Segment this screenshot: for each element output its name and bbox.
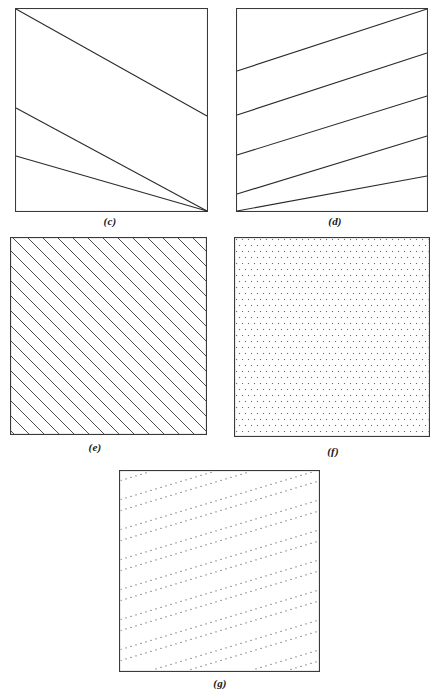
panel-f-stipple-dot (317, 377, 318, 378)
panel-f-stipple-dot (266, 335, 267, 336)
panel-f-stipple-dot (374, 359, 375, 360)
panel-f-stipple-dot (260, 275, 261, 276)
panel-g-line-dot (140, 474, 141, 475)
panel-g-line-dot (170, 495, 171, 496)
panel-f-stipple-dot (281, 425, 282, 426)
panel-f-stipple-dot (296, 287, 297, 288)
panel-f-stipple-dot (365, 257, 366, 258)
panel-g-line-dot (275, 602, 276, 603)
panel-f-stipple-dot (374, 299, 375, 300)
panel-g-line-dot (210, 472, 211, 473)
panel-f-stipple-dot (254, 275, 255, 276)
panel-f-stipple-dot (311, 281, 312, 282)
panel-f-stipple-dot (326, 419, 327, 420)
panel-f-stipple-dot (326, 371, 327, 372)
panel-g-line-dot (170, 574, 171, 575)
panel-f-stipple-dot (410, 347, 411, 348)
panel-f-stipple-dot (335, 245, 336, 246)
panel-f-stipple-dot (269, 257, 270, 258)
panel-f-stipple-dot (377, 377, 378, 378)
panel-f-stipple-dot (404, 239, 405, 240)
panel-f-stipple-dot (266, 323, 267, 324)
panel-f-stipple-dot (347, 329, 348, 330)
panel-f-stipple-dot (359, 245, 360, 246)
panel-f-stipple-dot (386, 263, 387, 264)
panel-g-line-dot (225, 628, 226, 629)
panel-g-line-dot (160, 607, 161, 608)
panel-f-stipple-dot (281, 281, 282, 282)
panel-g-line-dot (195, 626, 196, 627)
panel-f-stipple-dot (383, 305, 384, 306)
panel-g-line-dot (180, 642, 181, 643)
panel-f-stipple-dot (338, 359, 339, 360)
panel-g-line-dot (170, 555, 171, 556)
panel-f-stipple-dot (368, 311, 369, 312)
panel-g-line-dot (160, 558, 161, 559)
panel-f-stipple-dot (278, 275, 279, 276)
panel-f-stipple-dot (242, 311, 243, 312)
panel-f-stipple-dot (350, 299, 351, 300)
panel-f-stipple-dot (245, 281, 246, 282)
panel-f-stipple-dot (341, 365, 342, 366)
panel-f-stipple-dot (290, 431, 291, 432)
panel-g-line-dot (140, 594, 141, 595)
panel-f-stipple-dot (257, 329, 258, 330)
panel-f-stipple-dot (353, 245, 354, 246)
panel-f-stipple-dot (407, 413, 408, 414)
panel-f-stipple-dot (308, 275, 309, 276)
panel-g-line-dot (130, 616, 131, 617)
panel-g-line-dot (310, 472, 311, 473)
panel-g-line-dot (160, 498, 161, 499)
panel-f-stipple-dot (413, 281, 414, 282)
panel-g-line-dot (200, 606, 201, 607)
panel-f-stipple-dot (317, 293, 318, 294)
panel-g-line-dot (230, 526, 231, 527)
panel-f-stipple-dot (323, 257, 324, 258)
panel-f-stipple-dot (332, 359, 333, 360)
panel-f-stipple-dot (326, 383, 327, 384)
panel-g-line-dot (150, 520, 151, 521)
panel-f-stipple-dot (341, 329, 342, 330)
panel-g-line-dot (120, 499, 121, 500)
panel-f-stipple-dot (293, 329, 294, 330)
panel-f-stipple-dot (338, 371, 339, 372)
panel-c-border (16, 9, 208, 212)
panel-f-stipple-dot (371, 401, 372, 402)
panel-g-line-dot (170, 634, 171, 635)
panel-f-stipple-dot (245, 317, 246, 318)
panel-g-line-dot (310, 592, 311, 593)
panel-f-stipple-dot (317, 365, 318, 366)
panel-f-stipple-dot (296, 359, 297, 360)
panel-f-stipple-dot (353, 269, 354, 270)
panel-g-line-dot (260, 547, 261, 548)
panel-f-stipple-dot (281, 329, 282, 330)
panel-f-stipple-dot (404, 299, 405, 300)
panel-g-line-dot (280, 631, 281, 632)
panel-g-line-dot (285, 539, 286, 540)
panel-g-line-dot (155, 529, 156, 530)
panel-f-stipple-dot (272, 263, 273, 264)
panel-g-line-dot (170, 645, 171, 646)
panel-f-stipple-dot (404, 383, 405, 384)
panel-g-line-dot (205, 484, 206, 485)
panel-f-stipple-dot (263, 401, 264, 402)
panel-f-stipple-dot (347, 365, 348, 366)
panel-f-stipple-dot (425, 341, 426, 342)
panel-f-stipple-dot (266, 239, 267, 240)
panel-f-stipple-dot (392, 311, 393, 312)
panel-f-stipple-dot (251, 281, 252, 282)
panel-f-stipple-dot (335, 377, 336, 378)
panel-f-stipple-dot (293, 389, 294, 390)
panel-f-stipple-dot (290, 395, 291, 396)
panel-f-stipple-dot (365, 413, 366, 414)
panel-f-stipple-dot (401, 257, 402, 258)
panel-g-line-dot (205, 503, 206, 504)
panel-g-line-dot (145, 521, 146, 522)
panel-f-stipple-dot (377, 269, 378, 270)
panel-g-line-dot (200, 486, 201, 487)
panel-g-line-dot (265, 665, 266, 666)
panel-f-stipple-dot (260, 395, 261, 396)
panel-g-line-dot (125, 587, 126, 588)
panel-f-stipple-dot (350, 263, 351, 264)
panel-f-stipple-dot (314, 359, 315, 360)
